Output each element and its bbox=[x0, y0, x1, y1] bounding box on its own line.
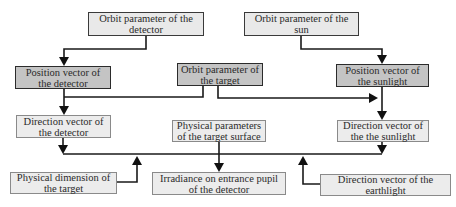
node-label: Orbit parameter of the detector bbox=[91, 13, 201, 35]
node-label: Physical dimension of the target bbox=[13, 172, 114, 194]
node-orbit-target: Orbit parameter of the target bbox=[177, 63, 263, 86]
node-orbit-detector: Orbit parameter of the detector bbox=[88, 12, 204, 36]
node-direction-sunlight: Direction vector of the the sunlight bbox=[337, 120, 429, 142]
node-direction-earthlight: Direction vector of the earthlight bbox=[320, 174, 451, 196]
flow-diagram: Orbit parameter of the detector Orbit pa… bbox=[0, 0, 456, 207]
node-physical-parameters-surface: Physical parameters of the target surfac… bbox=[172, 120, 266, 142]
node-label: Direction vector of the detector bbox=[19, 116, 108, 138]
node-irradiance: Irradiance on entrance pupil of the dete… bbox=[152, 172, 286, 195]
node-label: Irradiance on entrance pupil of the dete… bbox=[155, 173, 283, 195]
node-label: Physical parameters of the target surfac… bbox=[175, 120, 263, 142]
node-direction-detector: Direction vector of the detector bbox=[16, 115, 111, 138]
node-label: Orbit parameter of the sun bbox=[247, 13, 356, 35]
node-orbit-sun: Orbit parameter of the sun bbox=[244, 12, 359, 36]
node-physical-dimension: Physical dimension of the target bbox=[10, 172, 117, 194]
node-label: Position vector of the sunlight bbox=[339, 65, 426, 87]
node-label: Direction vector of the the sunlight bbox=[340, 120, 426, 142]
node-position-detector: Position vector of the detector bbox=[15, 66, 111, 89]
node-label: Position vector of the detector bbox=[18, 67, 108, 89]
node-position-sunlight: Position vector of the sunlight bbox=[336, 64, 429, 87]
node-label: Direction vector of the earthlight bbox=[323, 174, 448, 196]
node-label: Orbit parameter of the target bbox=[180, 64, 260, 86]
